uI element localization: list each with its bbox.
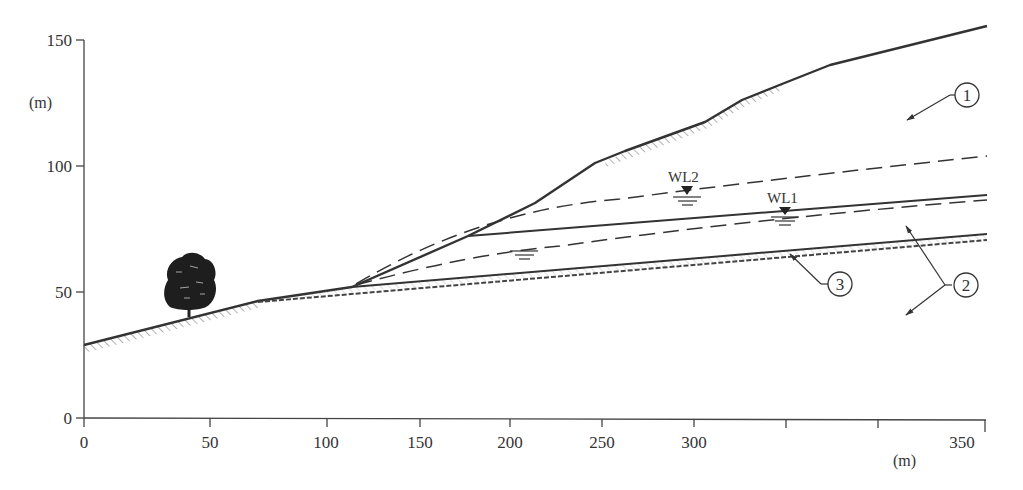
x-axis: 0 50 100 150 200 250 300 350 (m) — [80, 418, 986, 470]
y-tick-150: 150 — [47, 31, 73, 50]
ground-surface-line — [84, 26, 987, 345]
y-axis: 150 100 50 0 (m) — [29, 31, 84, 428]
y-axis-unit: (m) — [29, 94, 52, 112]
x-tick-0: 0 — [80, 433, 89, 452]
callout-3-label: 3 — [836, 275, 845, 294]
callout-2-label: 2 — [962, 276, 971, 295]
tree-icon — [164, 253, 216, 317]
x-tick-50: 50 — [202, 433, 219, 452]
water-symbol-lower — [510, 251, 538, 259]
y-tick-50: 50 — [55, 283, 72, 302]
x-axis-unit: (m) — [893, 452, 916, 470]
y-tick-100: 100 — [47, 157, 73, 176]
callout-1: 1 — [907, 83, 979, 120]
x-tick-100: 100 — [313, 433, 339, 452]
x-tick-300: 300 — [681, 433, 707, 452]
callout-1-label: 1 — [963, 86, 972, 105]
callout-3: 3 — [790, 254, 852, 296]
cross-section-figure: 150 100 50 0 (m) 0 50 100 150 200 250 30… — [0, 0, 1023, 490]
wl1-label: WL1 — [767, 190, 798, 206]
x-tick-350: 350 — [949, 433, 975, 452]
wl2-label: WL2 — [668, 169, 699, 185]
layer-3-band — [258, 234, 987, 303]
wl2-marker: WL2 — [668, 169, 701, 205]
x-tick-250: 250 — [589, 433, 615, 452]
x-tick-150: 150 — [407, 433, 433, 452]
y-tick-0: 0 — [64, 409, 73, 428]
x-tick-200: 200 — [497, 433, 523, 452]
